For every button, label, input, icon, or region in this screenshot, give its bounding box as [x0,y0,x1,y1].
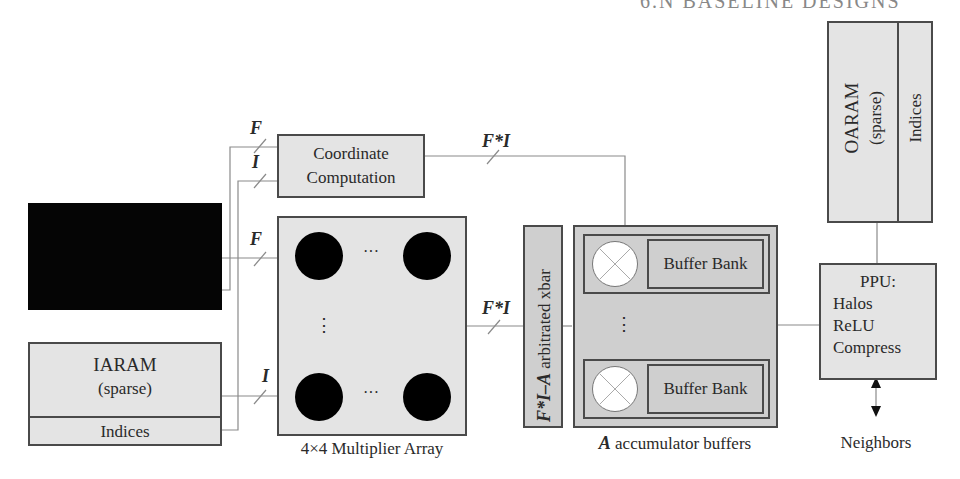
ppu-block: PPU: Halos ReLU Compress [819,263,937,380]
h-ellipsis: ··· [363,384,379,402]
multiplier-unit [403,373,451,421]
iaram-indices-label: Indices [30,421,220,443]
accumulator-buffers: Buffer Bank ⋮ Buffer Bank [573,225,778,428]
iaram-indices: Indices [28,416,222,446]
ppu-item: ReLU [833,315,875,337]
coordinate-line1: Coordinate [279,143,423,165]
coordinate-computation-block: Coordinate Computation [277,134,425,198]
buffer-row: Buffer Bank [583,359,770,419]
accumulate-icon [592,241,638,287]
wire-label-mult-f: F [250,229,262,250]
multiplier-caption: 4×4 Multiplier Array [270,438,474,460]
xbar-var: F*I–A [534,373,554,422]
oaram-indices-label: Indices [905,63,927,173]
neighbors-label: Neighbors [816,432,936,454]
accumulator-caption-text: accumulator buffers [611,434,751,453]
ppu-item: Halos [833,293,873,315]
accumulate-icon [592,366,638,412]
arbitrated-xbar: F*I–A arbitrated xbar [523,225,563,428]
oaram-title: OARAM [841,63,863,173]
ppu-title: PPU: [821,271,935,293]
black-block [28,203,222,310]
wire-label-coord-f: F [250,118,262,139]
buffer-bank-label: Buffer Bank [649,378,762,400]
buffer-bank-label: Buffer Bank [649,253,762,275]
wire-label-coord-out: F*I [482,131,510,152]
ppu-item: Compress [833,337,901,359]
coordinate-line2: Computation [279,167,423,189]
wire-label-coord-i: I [252,152,259,173]
oaram-indices: Indices [897,21,933,223]
iaram-subtitle: (sparse) [30,378,220,400]
oaram-subtitle: (sparse) [865,63,887,173]
buffer-bank: Buffer Bank [647,239,764,289]
h-ellipsis: ··· [363,243,379,261]
accumulator-caption: A accumulator buffers [560,432,790,455]
buffer-bank: Buffer Bank [647,364,764,414]
iaram-block: IARAM (sparse) [28,342,222,418]
iaram-title: IARAM [30,354,220,376]
wire-label-mult-out: F*I [482,298,510,319]
multiplier-unit [403,232,451,280]
oaram-block: OARAM (sparse) [827,21,899,223]
v-ellipsis: ⋮ [615,313,633,335]
wire-label-mult-i: I [262,366,269,387]
multiplier-unit [295,373,343,421]
xbar-label: arbitrated xbar [535,269,554,373]
multiplier-array: ··· ··· ⋮ [277,216,467,436]
accumulator-var: A [599,433,611,453]
v-ellipsis: ⋮ [315,314,333,336]
buffer-row: Buffer Bank [583,234,770,294]
multiplier-unit [295,232,343,280]
